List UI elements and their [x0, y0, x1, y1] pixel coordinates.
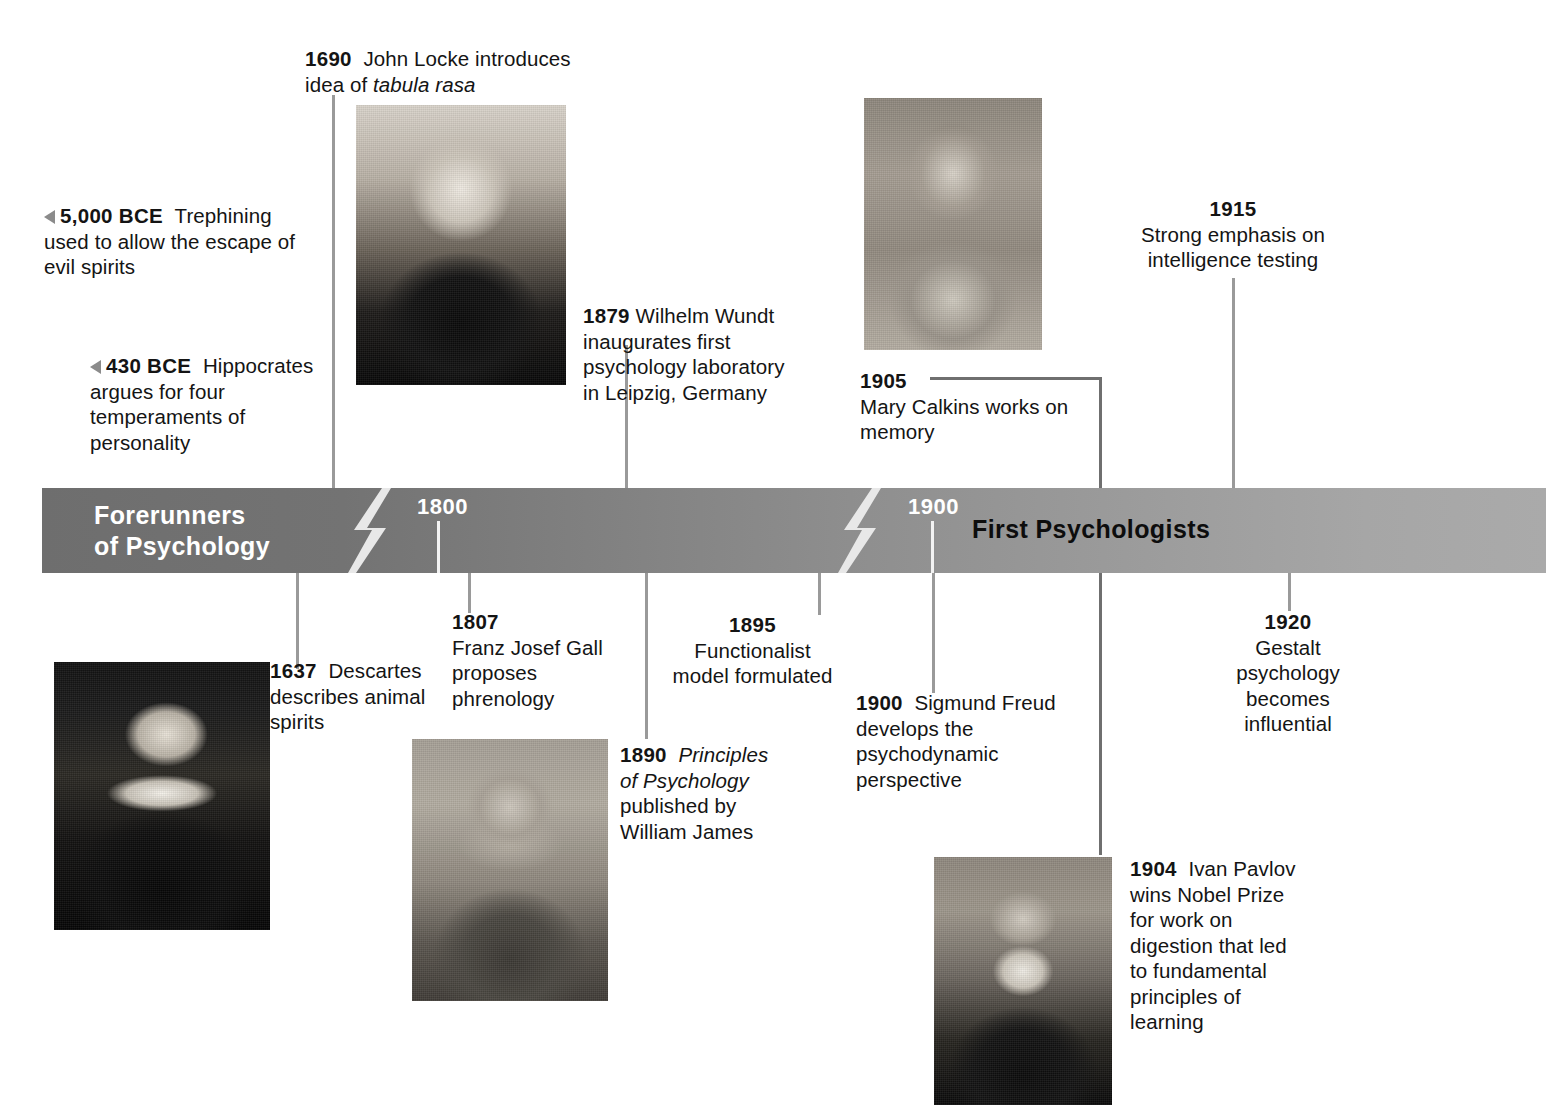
- event-text-1900-line3: psychodynamic: [856, 742, 999, 765]
- era-label-forerunners-line1: Forerunners: [94, 500, 270, 531]
- event-text-5000-bce-line2: used to allow the escape of: [44, 230, 295, 253]
- event-note-1920: 1920 Gestalt psychology becomes influent…: [1196, 609, 1380, 737]
- event-text-1920-line5: influential: [1244, 712, 1332, 735]
- event-text-1915-line2: Strong emphasis on: [1141, 223, 1325, 246]
- event-text-1807-line3: proposes: [452, 661, 537, 684]
- timeline-bar: Forerunners of Psychology First Psycholo…: [42, 488, 1546, 573]
- event-note-1904-pavlov: 1904 Ivan Pavlov wins Nobel Prize for wo…: [1130, 856, 1330, 1035]
- event-note-1807: 1807 Franz Josef Gall proposes phrenolog…: [452, 609, 652, 711]
- event-text-1637-line2: describes animal: [270, 685, 425, 708]
- event-text-1904-line2: wins Nobel Prize: [1130, 883, 1284, 906]
- event-text-1637-line1: Descartes: [328, 659, 421, 682]
- era-label-forerunners-line2: of Psychology: [94, 531, 270, 562]
- event-text-1895-line2: Functionalist: [694, 639, 810, 662]
- event-year-430-bce: 430 BCE: [106, 354, 191, 377]
- timeline-break-mark-1: [342, 488, 404, 573]
- event-text-1900-line1: Sigmund Freud: [914, 691, 1055, 714]
- event-note-430-bce: 430 BCE Hippocrates argues for four temp…: [90, 353, 352, 455]
- bar-tick-1900: [931, 521, 934, 573]
- event-year-1890: 1890: [620, 743, 667, 766]
- portrait-ivan-pavlov: [934, 857, 1112, 1105]
- event-text-1879-line2: inaugurates first: [583, 330, 731, 353]
- event-text-1690-italic-title: tabula rasa: [373, 73, 476, 96]
- bar-year-1900: 1900: [908, 494, 959, 520]
- portrait-john-locke: [356, 105, 566, 385]
- event-text-1904-line1: Ivan Pavlov: [1188, 857, 1295, 880]
- event-text-1905-line2: Mary Calkins works on: [860, 395, 1068, 418]
- event-text-430-bce-line2: argues for four: [90, 380, 225, 403]
- era-label-first-psychologists: First Psychologists: [972, 515, 1210, 544]
- event-text-1904-line5: to fundamental: [1130, 959, 1267, 982]
- event-year-1895: 1895: [729, 613, 776, 636]
- event-text-1879-line3: psychology laboratory: [583, 355, 785, 378]
- event-text-1920-line4: becomes: [1246, 687, 1330, 710]
- event-note-1895: 1895 Functionalist model formulated: [660, 612, 845, 689]
- event-text-1807-line4: phrenology: [452, 687, 554, 710]
- connector-1900-freud: [932, 571, 935, 693]
- event-text-1920-line2: Gestalt: [1255, 636, 1321, 659]
- triangle-left-icon: [44, 210, 55, 224]
- event-text-1890-italic-line1: Principles: [678, 743, 768, 766]
- connector-1895: [818, 571, 821, 615]
- portrait-rene-descartes: [54, 662, 270, 930]
- connector-1807: [468, 571, 471, 613]
- event-note-1690: 1690 John Locke introduces idea of tabul…: [305, 46, 605, 97]
- event-text-430-bce-line1: Hippocrates: [203, 354, 314, 377]
- event-text-1904-line6: principles of: [1130, 985, 1241, 1008]
- timeline-figure: Forerunners of Psychology First Psycholo…: [0, 0, 1546, 1119]
- event-note-1900-freud: 1900 Sigmund Freud develops the psychody…: [856, 690, 1071, 792]
- connector-1915: [1232, 278, 1235, 490]
- event-text-1690-line2-pre: idea of: [305, 73, 373, 96]
- event-year-1900-freud: 1900: [856, 691, 903, 714]
- event-text-1905-line3: memory: [860, 420, 935, 443]
- event-note-5000-bce: 5,000 BCE Trephining used to allow the e…: [44, 203, 344, 280]
- triangle-left-icon: [90, 360, 101, 374]
- event-text-1690-line1: John Locke introduces: [363, 47, 570, 70]
- event-text-1900-line2: develops the: [856, 717, 973, 740]
- event-text-1637-line3: spirits: [270, 710, 324, 733]
- event-year-1904: 1904: [1130, 857, 1177, 880]
- event-text-1890-line4: William James: [620, 820, 753, 843]
- event-text-430-bce-line4: personality: [90, 431, 190, 454]
- event-text-5000-bce-line3: evil spirits: [44, 255, 135, 278]
- era-label-forerunners: Forerunners of Psychology: [94, 500, 270, 562]
- event-year-1690: 1690: [305, 47, 352, 70]
- event-text-1904-line4: digestion that led: [1130, 934, 1287, 957]
- event-text-1890-line3: published by: [620, 794, 736, 817]
- bar-tick-1800: [437, 521, 440, 573]
- event-year-1637: 1637: [270, 659, 317, 682]
- connector-1905-vertical: [1099, 377, 1102, 855]
- event-text-1920-line3: psychology: [1236, 661, 1340, 684]
- event-text-1890-italic-line2: of Psychology: [620, 769, 749, 792]
- event-year-1879: 1879: [583, 304, 630, 327]
- portrait-mary-calkins: [864, 98, 1042, 350]
- portrait-william-james: [412, 739, 608, 1001]
- event-text-1900-line4: perspective: [856, 768, 962, 791]
- event-text-1915-line3: intelligence testing: [1148, 248, 1319, 271]
- event-year-1920: 1920: [1265, 610, 1312, 633]
- event-note-1915: 1915 Strong emphasis on intelligence tes…: [1088, 196, 1378, 273]
- connector-1920: [1288, 571, 1291, 611]
- event-text-1904-line7: learning: [1130, 1010, 1204, 1033]
- event-text-1879-line1: Wilhelm Wundt: [636, 304, 775, 327]
- event-year-1905: 1905: [860, 369, 907, 392]
- event-text-1879-line4: in Leipzig, Germany: [583, 381, 767, 404]
- bar-year-1800: 1800: [417, 494, 468, 520]
- event-text-1807-line2: Franz Josef Gall: [452, 636, 603, 659]
- event-note-1905: 1905 Mary Calkins works on memory: [860, 368, 1090, 445]
- event-text-5000-bce-line1: Trephining: [175, 204, 272, 227]
- event-year-1807: 1807: [452, 610, 499, 633]
- timeline-break-mark-2: [832, 488, 894, 573]
- event-note-1879: 1879 Wilhelm Wundt inaugurates first psy…: [583, 303, 798, 405]
- event-text-1895-line3: model formulated: [673, 664, 833, 687]
- event-text-430-bce-line3: temperaments of: [90, 405, 245, 428]
- event-year-1915: 1915: [1210, 197, 1257, 220]
- event-text-1904-line3: for work on: [1130, 908, 1233, 931]
- event-note-1890: 1890 Principles of Psychology published …: [620, 742, 835, 844]
- connector-1637: [296, 571, 299, 669]
- event-note-1637: 1637 Descartes describes animal spirits: [270, 658, 450, 735]
- event-year-5000-bce: 5,000 BCE: [60, 204, 163, 227]
